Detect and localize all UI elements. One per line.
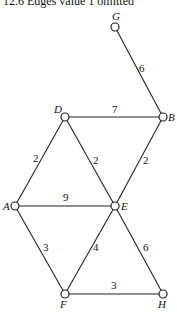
edge-weight-B-E: 2 xyxy=(143,154,149,166)
node-label-H: H xyxy=(157,298,167,310)
node-D xyxy=(61,113,69,121)
edge-D-A xyxy=(15,117,65,206)
edge-E-F xyxy=(65,206,115,294)
edge-B-E xyxy=(115,117,163,206)
graph-diagram: 6722293463 GBDAEFH xyxy=(0,0,177,313)
edge-weight-A-F: 3 xyxy=(43,241,49,253)
edge-weight-F-H: 3 xyxy=(111,279,117,291)
edge-weight-E-F: 4 xyxy=(93,241,99,253)
node-E xyxy=(111,202,119,210)
node-A xyxy=(11,202,19,210)
node-label-E: E xyxy=(120,200,128,212)
edge-D-E xyxy=(65,117,115,206)
node-F xyxy=(61,290,69,298)
weights-layer: 6722293463 xyxy=(33,62,149,291)
node-G xyxy=(111,23,119,31)
node-label-A: A xyxy=(2,200,10,212)
node-H xyxy=(159,290,167,298)
edge-weight-D-E: 2 xyxy=(93,154,99,166)
node-label-D: D xyxy=(53,103,62,115)
edge-weight-E-H: 6 xyxy=(143,241,149,253)
node-label-B: B xyxy=(168,111,175,123)
edge-weight-A-E: 9 xyxy=(63,191,69,203)
node-label-G: G xyxy=(112,10,120,22)
edge-weight-D-B: 7 xyxy=(112,103,118,115)
nodes-layer: GBDAEFH xyxy=(2,10,175,310)
edge-E-H xyxy=(115,206,163,294)
node-label-F: F xyxy=(59,298,67,310)
edge-weight-D-A: 2 xyxy=(33,152,39,164)
edge-A-F xyxy=(15,206,65,294)
edge-weight-G-B: 6 xyxy=(139,62,145,74)
node-B xyxy=(159,113,167,121)
